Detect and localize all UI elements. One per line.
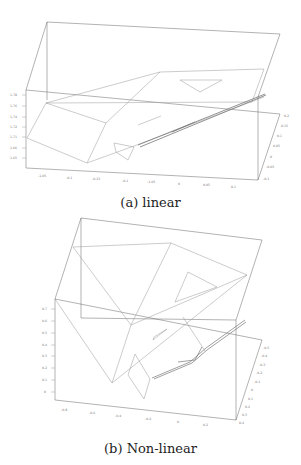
svg-text:0.5: 0.5 [42,331,47,335]
svg-text:-1.05: -1.05 [38,174,46,178]
svg-text:-1.05: -1.05 [147,180,155,184]
axis-ticks-z [51,309,55,392]
svg-text:0: 0 [177,420,179,424]
wireframe-plot-b: 0.7 0.6 0.5 0.4 0.3 0.2 0.1 0 -0.8 -0.6 … [0,210,301,438]
svg-text:0.1: 0.1 [248,397,253,401]
svg-text:0: 0 [178,182,180,186]
y-tick-labels: 0.2 0.15 0.1 0.05 0 -0.05 -0.1 [263,114,289,181]
svg-text:0.6: 0.6 [42,319,47,323]
svg-text:1.74: 1.74 [10,115,17,119]
svg-text:0.3: 0.3 [242,413,247,417]
svg-text:-0.1: -0.1 [263,177,269,181]
svg-text:0.1: 0.1 [42,378,47,382]
wireframe-plot-a: 1.78 1.76 1.74 1.72 1.71 1.66 1.65 -1.05… [0,0,301,190]
svg-text:-0.3: -0.3 [259,363,265,367]
svg-text:0.05: 0.05 [273,144,280,148]
svg-text:-0.1: -0.1 [254,380,260,384]
svg-text:-0.8: -0.8 [61,408,67,412]
surface-lines [27,69,264,163]
axis-ticks-z [22,95,26,158]
svg-text:-0.5: -0.5 [263,346,269,350]
figure-b-nonlinear: 0.7 0.6 0.5 0.4 0.3 0.2 0.1 0 -0.8 -0.6 … [0,210,301,438]
svg-text:0.3: 0.3 [42,354,47,358]
svg-text:0.7: 0.7 [42,307,47,311]
svg-text:0.2: 0.2 [245,405,250,409]
svg-text:0.1: 0.1 [231,185,236,189]
svg-text:0.2: 0.2 [284,114,289,118]
svg-text:0: 0 [270,155,272,159]
svg-text:-0.4: -0.4 [261,354,267,358]
caption-b: (b) Non-linear [0,441,301,456]
caption-a: (a) linear [0,195,301,210]
y-tick-labels: -0.5 -0.4 -0.3 -0.2 -0.1 0 0.1 0.2 0.3 0… [239,346,269,425]
svg-text:0.1: 0.1 [277,134,282,138]
surface-dense-edge [152,320,246,379]
svg-text:0.4: 0.4 [42,343,47,347]
svg-text:-0.2: -0.2 [145,417,151,421]
surface-lines [55,243,247,399]
svg-text:1.66: 1.66 [10,146,17,150]
svg-text:1.72: 1.72 [10,125,17,129]
svg-text:-0.1: -0.1 [122,179,128,183]
svg-text:1.78: 1.78 [10,93,17,97]
x-tick-labels: -0.8 -0.6 -0.4 -0.2 0 0.2 [61,408,208,427]
bounding-box [26,22,280,180]
svg-text:-0.05: -0.05 [266,165,274,169]
svg-text:0: 0 [251,388,253,392]
svg-text:0.2: 0.2 [203,423,208,427]
svg-text:0.4: 0.4 [239,421,244,425]
svg-text:0.15: 0.15 [281,124,288,128]
svg-text:-0.1: -0.1 [66,176,72,180]
svg-text:-0.15: -0.15 [92,177,100,181]
svg-text:1.71: 1.71 [10,135,17,139]
svg-text:0.2: 0.2 [42,366,47,370]
bounding-box [55,218,262,420]
z-tick-labels: 0.7 0.6 0.5 0.4 0.3 0.2 0.1 0 [42,307,47,394]
svg-text:-0.2: -0.2 [256,371,262,375]
z-tick-labels: 1.78 1.76 1.74 1.72 1.71 1.66 1.65 [10,93,17,160]
svg-text:0: 0 [44,390,46,394]
svg-text:1.76: 1.76 [10,104,17,108]
figure-a-linear: 1.78 1.76 1.74 1.72 1.71 1.66 1.65 -1.05… [0,0,301,190]
svg-text:1.65: 1.65 [10,156,17,160]
svg-text:0.05: 0.05 [203,183,210,187]
svg-text:-0.6: -0.6 [89,411,95,415]
svg-text:-0.4: -0.4 [115,414,121,418]
x-tick-labels: -1.05 -0.1 -0.15 -0.1 -1.05 0 0.05 0.1 [38,174,236,189]
